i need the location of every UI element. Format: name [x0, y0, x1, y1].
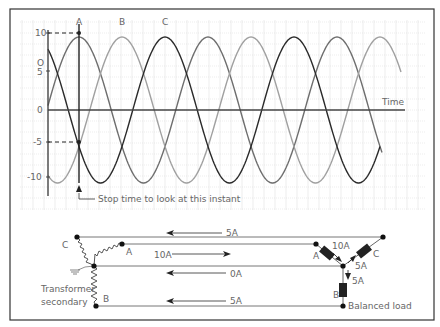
- crossing-dot: [77, 140, 81, 144]
- load-node-c: [380, 234, 385, 239]
- source-label-line2: secondary: [41, 297, 88, 307]
- load-label-c: C: [373, 249, 379, 259]
- phase-label-a: A: [76, 17, 83, 27]
- y-tick-0: 0: [37, 105, 43, 115]
- three-phase-figure: 10 5 O 0 -5 -10 Stop time to look at thi…: [0, 0, 440, 327]
- source-neutral-node: [91, 263, 96, 268]
- source-node-c: [74, 234, 79, 239]
- load-current-b: 5A: [352, 276, 365, 286]
- peak-dot: [77, 31, 81, 35]
- load-resistor-b: [339, 283, 347, 297]
- current-line-a: 10A: [154, 250, 172, 260]
- current-neutral: 0A: [230, 269, 243, 279]
- y-tick-10: 10: [35, 28, 47, 38]
- load-current-a: 10A: [332, 241, 350, 251]
- y-tick-minus10: -10: [27, 172, 42, 182]
- source-node-a: [119, 241, 124, 246]
- instant-annotation: Stop time to look at this instant: [98, 194, 241, 204]
- load-node-b: [340, 303, 345, 308]
- time-axis-label: Time: [381, 97, 404, 107]
- source-label-a: A: [126, 247, 133, 257]
- phase-label-b: B: [119, 17, 125, 27]
- load-node-a: [313, 241, 318, 246]
- y-tick-minus5: -5: [33, 137, 42, 147]
- source-node-b: [93, 303, 98, 308]
- source-label-c: C: [62, 240, 68, 250]
- load-label-b: B: [333, 290, 339, 300]
- source-label-b: B: [103, 294, 109, 304]
- y-tick-5: 5: [37, 67, 43, 77]
- y-tick-5-extra: O: [37, 58, 44, 68]
- phase-label-c: C: [162, 17, 168, 27]
- load-current-c: 5A: [355, 261, 368, 271]
- load-label-a: A: [313, 251, 320, 261]
- current-line-c: 5A: [226, 228, 239, 238]
- source-label-line1: Transformer: [40, 284, 95, 294]
- current-line-b: 5A: [230, 296, 243, 306]
- load-label: Balanced load: [348, 301, 412, 311]
- load-neutral-node: [340, 263, 345, 268]
